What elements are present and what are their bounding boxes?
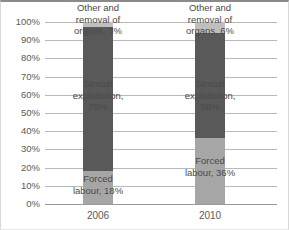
gridline-70	[45, 77, 277, 78]
gridline-40	[45, 131, 277, 132]
gridline-20	[45, 168, 277, 169]
gridline-10	[45, 186, 277, 187]
x-category-label-2010: 2010	[170, 210, 250, 222]
gridline-30	[45, 149, 277, 150]
bar-segment-2010-sexual-exploitation[interactable]	[195, 33, 225, 139]
x-category-label-2006: 2006	[58, 210, 138, 222]
bar-2006[interactable]	[83, 22, 113, 204]
gridline-90	[45, 40, 277, 41]
y-tick-label-80: 80%	[0, 53, 40, 63]
y-tick-label-70: 70%	[0, 72, 40, 82]
bar-segment-2010-other-organs[interactable]	[195, 22, 225, 33]
y-tick-label-40: 40%	[0, 126, 40, 136]
y-tick-label-10: 10%	[0, 181, 40, 191]
gridline-80	[45, 58, 277, 59]
stacked-bar-chart: 100% 90% 80% 70% 60% 50% 40% 30% 20% 10%…	[0, 0, 289, 230]
bar-2010[interactable]	[195, 22, 225, 204]
y-tick-label-0: 0%	[0, 199, 40, 209]
gridline-100	[45, 22, 277, 23]
y-tick-label-90: 90%	[0, 35, 40, 45]
y-tick-label-20: 20%	[0, 163, 40, 173]
bar-segment-2006-other-organs[interactable]	[83, 22, 113, 27]
plot-area	[45, 22, 277, 204]
y-tick-label-60: 60%	[0, 90, 40, 100]
bar-segment-2006-sexual-exploitation[interactable]	[83, 27, 113, 171]
y-tick-label-30: 30%	[0, 144, 40, 154]
gridline-60	[45, 95, 277, 96]
gridline-50	[45, 113, 277, 114]
bar-segment-2006-forced-labour[interactable]	[83, 171, 113, 204]
y-tick-label-100: 100%	[0, 17, 40, 27]
bar-segment-2010-forced-labour[interactable]	[195, 138, 225, 204]
y-tick-label-50: 50%	[0, 108, 40, 118]
gridline-0	[45, 204, 277, 205]
